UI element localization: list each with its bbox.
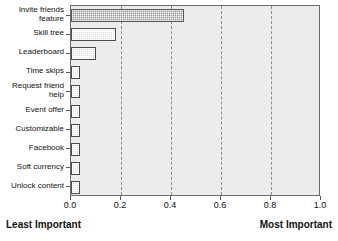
y-axis-tick-label: Customizable — [0, 120, 64, 137]
x-axis-tick-label: 0.6 — [214, 200, 227, 210]
y-axis-tick-label: Soft currency — [0, 158, 64, 175]
bar-row — [71, 44, 319, 61]
bar — [71, 66, 80, 79]
bar — [71, 105, 80, 118]
y-axis-tick-label: Invite friends feature — [0, 5, 64, 22]
x-axis-tick-label: 1.0 — [314, 200, 327, 210]
y-axis-tick-label: Skill tree — [0, 24, 64, 41]
plot-area — [70, 5, 320, 196]
y-axis-tick-label: Event offer — [0, 101, 64, 118]
y-axis-tick-label: Request friend help — [0, 81, 64, 98]
bar-row — [71, 63, 319, 80]
x-axis-tick-label: 0.8 — [264, 200, 277, 210]
bar-row — [71, 159, 319, 176]
y-axis-category-labels: Invite friends featureSkill treeLeaderbo… — [0, 5, 70, 196]
bar — [71, 9, 184, 22]
bar-row — [71, 102, 319, 119]
bar — [71, 47, 96, 60]
y-axis-tick-label: Leaderboard — [0, 43, 64, 60]
horizontal-bar-chart: Invite friends featureSkill treeLeaderbo… — [0, 0, 338, 241]
bar — [71, 162, 80, 175]
x-axis-tick-label: 0.0 — [64, 200, 77, 210]
bar — [71, 28, 116, 41]
bar-row — [71, 25, 319, 42]
bar-row — [71, 178, 319, 195]
axis-high-label: Most Important — [260, 219, 332, 230]
axis-low-label: Least Important — [6, 219, 81, 230]
bar — [71, 181, 80, 194]
bar — [71, 85, 80, 98]
y-axis-tick-label: Facebook — [0, 139, 64, 156]
bar-row — [71, 82, 319, 99]
x-axis-tick-label: 0.4 — [164, 200, 177, 210]
bar-row — [71, 6, 319, 23]
x-axis-tick-label: 0.2 — [114, 200, 127, 210]
bar — [71, 124, 80, 137]
bar-row — [71, 121, 319, 138]
bar — [71, 143, 80, 156]
bar-rows — [71, 6, 319, 195]
y-axis-tick-label: Unlock content — [0, 177, 64, 194]
bar-row — [71, 140, 319, 157]
y-axis-tick-label: Time skips — [0, 62, 64, 79]
